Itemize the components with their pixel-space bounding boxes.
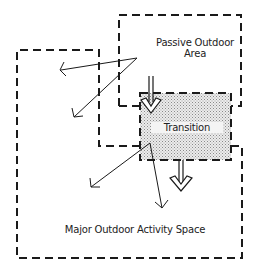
flow-arrow-transition-to-major — [170, 160, 192, 191]
view-arrow-line — [91, 143, 150, 187]
passive-area-label-line1: Passive Outdoor — [140, 37, 250, 48]
arrowhead-icon — [90, 178, 100, 187]
major-space-label: Major Outdoor Activity Space — [40, 224, 230, 235]
passive-area-label: Passive Outdoor Area — [140, 37, 250, 59]
transition-label: Transition — [151, 122, 223, 133]
passive-area-label-line2: Area — [140, 48, 250, 59]
arrowhead-icon — [72, 108, 83, 117]
